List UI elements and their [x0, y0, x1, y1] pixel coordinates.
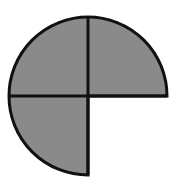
three-quarter-circle: [0, 0, 179, 184]
fraction-diagram: [0, 0, 179, 184]
